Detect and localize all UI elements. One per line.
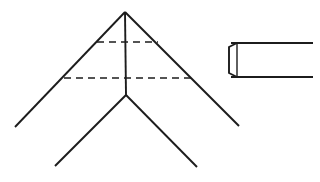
technical-line-drawing	[0, 0, 320, 182]
drawing-background	[0, 0, 320, 182]
chevron-center-axis	[125, 12, 126, 95]
